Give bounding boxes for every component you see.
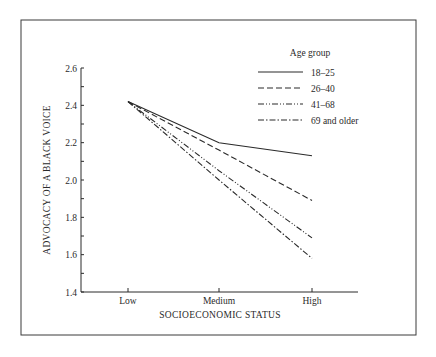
x-tick-label: Medium (203, 296, 236, 306)
y-tick-label: 1.6 (65, 250, 77, 260)
y-tick-label: 2.2 (65, 138, 77, 148)
plot-lines (128, 102, 312, 259)
legend-label: 26–40 (311, 84, 335, 94)
x-tick-label: Low (119, 296, 137, 306)
chart-figure: 1.41.61.82.02.22.42.6LowMediumHigh Age g… (0, 0, 436, 357)
legend-label: 41–68 (311, 100, 335, 110)
y-tick-label: 1.8 (65, 213, 77, 223)
series-line-4 (128, 102, 312, 259)
y-tick-label: 1.4 (65, 288, 77, 298)
y-tick-label: 2.4 (65, 101, 77, 111)
figure-frame (21, 20, 416, 335)
legend: Age group18–2526–4041–6869 and older (258, 48, 359, 126)
y-tick-label: 2.0 (65, 176, 77, 186)
x-axis-label: SOCIOECONOMIC STATUS (159, 310, 281, 320)
series-line-2 (128, 102, 312, 201)
legend-title: Age group (290, 48, 331, 58)
legend-label: 69 and older (311, 116, 359, 126)
legend-label: 18–25 (311, 68, 335, 78)
x-tick-label: High (303, 296, 322, 306)
series-line-3 (128, 102, 312, 238)
y-tick-label: 2.6 (65, 64, 77, 74)
y-axis-label: ADVOCACY OF A BLACK VOICE (42, 105, 52, 255)
series-line-1 (128, 102, 312, 156)
